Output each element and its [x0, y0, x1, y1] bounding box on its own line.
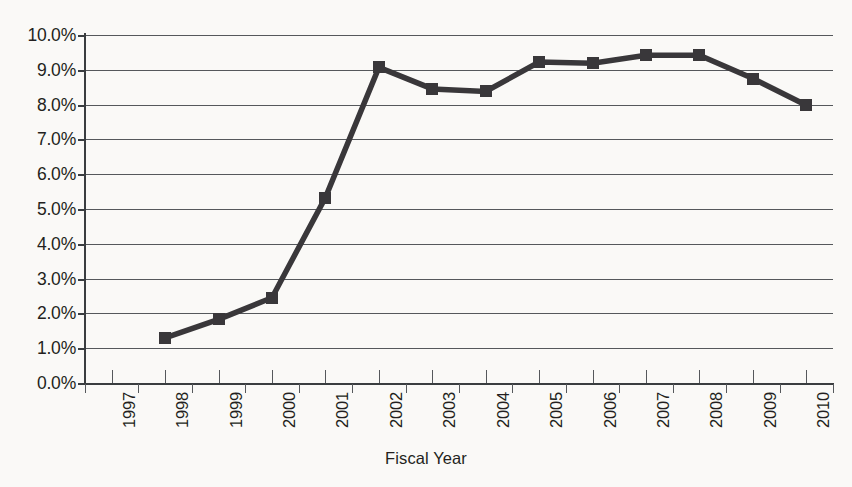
x-axis-major-tick: [699, 370, 700, 383]
x-axis-tick-label: 1997: [120, 392, 139, 428]
data-point-marker: [693, 49, 705, 61]
x-axis-tick-label: 2002: [387, 392, 406, 428]
x-axis-major-tick: [806, 370, 807, 383]
x-axis-tick-label: 2007: [654, 392, 673, 428]
x-axis-tick-label: 2008: [707, 392, 726, 428]
x-axis-tick-label: 2006: [601, 392, 620, 428]
gridline: [85, 70, 833, 71]
x-axis-minor-tick: [85, 384, 86, 393]
x-axis-tick-label: 2003: [440, 392, 459, 428]
x-axis-minor-tick: [833, 384, 834, 393]
data-point-marker: [213, 313, 225, 325]
x-axis-major-tick: [539, 370, 540, 383]
data-point-marker: [587, 57, 599, 69]
gridline: [85, 105, 833, 106]
y-axis-tick-label: 5.0%: [37, 199, 76, 220]
y-axis-tick-label: 6.0%: [37, 164, 76, 185]
gridline: [85, 209, 833, 210]
data-point-marker: [800, 99, 812, 111]
y-axis-tick-label: 2.0%: [37, 303, 76, 324]
y-axis-tick-label: 0.0%: [37, 373, 76, 394]
gridline: [85, 139, 833, 140]
x-axis-major-tick: [165, 370, 166, 383]
x-axis-tick-label: 1998: [173, 392, 192, 428]
x-axis-major-tick: [593, 370, 594, 383]
data-point-marker: [480, 85, 492, 97]
y-axis-tick-label: 3.0%: [37, 268, 76, 289]
line-chart: 0.0%1.0%2.0%3.0%4.0%5.0%6.0%7.0%8.0%9.0%…: [0, 0, 852, 487]
x-axis-major-tick: [112, 370, 113, 383]
data-point-marker: [640, 49, 652, 61]
x-axis-major-tick: [753, 370, 754, 383]
x-axis-minor-tick: [726, 384, 727, 393]
gridline: [85, 348, 833, 349]
y-axis-tick-label: 1.0%: [37, 338, 76, 359]
plot-area: [85, 35, 833, 383]
y-axis-line: [84, 33, 86, 385]
gridline: [85, 244, 833, 245]
data-point-marker: [319, 192, 331, 204]
x-axis-tick-label: 2004: [494, 392, 513, 428]
x-axis-major-tick: [646, 370, 647, 383]
gridline: [85, 174, 833, 175]
y-axis-tick-label: 9.0%: [37, 59, 76, 80]
data-point-marker: [159, 332, 171, 344]
x-axis-tick-label: 1999: [227, 392, 246, 428]
x-axis-major-tick: [325, 370, 326, 383]
y-axis-tick-label: 10.0%: [27, 25, 76, 46]
y-axis-tick-labels: 0.0%1.0%2.0%3.0%4.0%5.0%6.0%7.0%8.0%9.0%…: [0, 0, 76, 487]
gridline: [85, 313, 833, 314]
data-point-marker: [747, 73, 759, 85]
data-point-marker: [426, 83, 438, 95]
y-axis-tick-label: 4.0%: [37, 233, 76, 254]
x-axis-title: Fiscal Year: [0, 449, 852, 468]
data-point-marker: [373, 61, 385, 73]
data-point-marker: [533, 56, 545, 68]
x-axis-tick-label: 2005: [547, 392, 566, 428]
gridline: [85, 279, 833, 280]
x-axis-minor-tick: [352, 384, 353, 393]
x-axis-major-tick: [219, 370, 220, 383]
gridline: [85, 35, 833, 36]
x-axis-major-tick: [486, 370, 487, 383]
x-axis-major-tick: [272, 370, 273, 383]
y-axis-tick-label: 8.0%: [37, 94, 76, 115]
data-point-marker: [266, 292, 278, 304]
y-axis-tick-label: 7.0%: [37, 129, 76, 150]
x-axis-major-tick: [432, 370, 433, 383]
x-axis-tick-label: 2000: [280, 392, 299, 428]
x-axis-tick-label: 2001: [333, 392, 352, 428]
x-axis-minor-tick: [459, 384, 460, 393]
x-axis-tick-label: 2009: [761, 392, 780, 428]
x-axis-major-tick: [379, 370, 380, 383]
x-axis-tick-label: 2010: [814, 392, 833, 428]
